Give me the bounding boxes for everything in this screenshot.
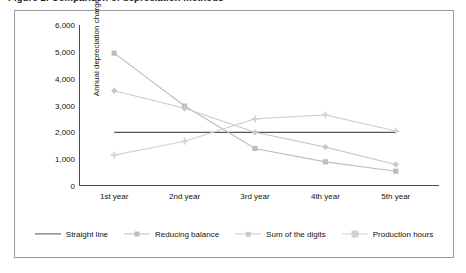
x-tick-label: 1st year [100, 192, 128, 201]
chart-legend: Straight lineReducing balanceSum of the … [15, 229, 453, 239]
x-tick-label: 4th year [311, 192, 340, 201]
legend-item[interactable]: Reducing balance [124, 229, 219, 239]
legend-item[interactable]: Sum of the digits [235, 229, 326, 239]
figure-title: Figure 1: Comparison of depreciation met… [8, 0, 224, 3]
x-tick-label: 5th year [381, 192, 410, 201]
x-tick-label: 2nd year [169, 192, 200, 201]
series-sum-of-the-digits [111, 88, 399, 168]
legend-label: Straight line [66, 230, 108, 239]
legend-item[interactable]: Straight line [35, 229, 108, 239]
legend-swatch-square-icon [124, 229, 150, 239]
y-tick-label: 3,000 [55, 101, 75, 110]
legend-label: Reducing balance [155, 230, 219, 239]
y-tick-label: 1,000 [55, 155, 75, 164]
legend-swatch-diamond-icon [235, 229, 261, 239]
x-tick-label: 3rd year [240, 192, 269, 201]
legend-label: Production hours [373, 230, 433, 239]
y-tick-label: 4,000 [55, 74, 75, 83]
y-tick-label: 2,000 [55, 128, 75, 137]
legend-item[interactable]: Production hours [342, 229, 433, 239]
chart-frame: Annual depreciation charge 01,0002,0003,… [14, 10, 454, 258]
series-reducing-balance [112, 51, 399, 174]
y-tick-label: 0 [71, 182, 75, 191]
y-tick-label: 5,000 [55, 47, 75, 56]
plot-area: Annual depreciation charge 01,0002,0003,… [79, 25, 431, 186]
legend-label: Sum of the digits [266, 230, 326, 239]
y-tick-label: 6,000 [55, 21, 75, 30]
legend-swatch-cross-icon [342, 229, 368, 239]
series-plot [79, 25, 431, 186]
legend-swatch-none-icon [35, 229, 61, 239]
